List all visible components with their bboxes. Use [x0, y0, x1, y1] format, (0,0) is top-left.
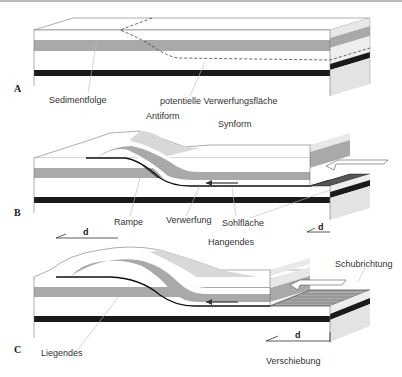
panel-label-c: C: [14, 344, 21, 355]
label-hangendes: Hangendes: [208, 237, 255, 247]
geology-diagram: A Sedimentfolge potentielle Verwerfungsf…: [0, 0, 402, 377]
displacement-d-c: d: [295, 330, 301, 340]
label-rampe: Rampe: [114, 217, 143, 227]
label-schubrichtung: Schubrichtung: [335, 259, 393, 269]
panel-c: Hangendes: [14, 237, 393, 366]
displacement-d-left: d: [83, 227, 89, 237]
label-verschiebung: Verschiebung: [266, 356, 321, 366]
panel-label-a: A: [14, 83, 22, 94]
label-verwerfung: Verwerfung: [166, 215, 212, 225]
panel-label-b: B: [14, 207, 21, 218]
label-sohlflaeche: Sohlfläche: [222, 218, 264, 228]
label-antiform: Antiform: [146, 111, 180, 121]
label-synform: Synform: [218, 119, 252, 129]
panel-a: A Sedimentfolge potentielle Verwerfungsf…: [14, 18, 370, 106]
displacement-d-right: d: [318, 222, 324, 232]
label-sedimentfolge: Sedimentfolge: [49, 95, 107, 105]
label-liegendes: Liegendes: [41, 348, 83, 358]
thrust-arrow-c: [290, 280, 346, 290]
panel-b: Antiform Synform: [14, 111, 388, 238]
label-potential-fault: potentielle Verwerfungsfläche: [160, 96, 278, 106]
